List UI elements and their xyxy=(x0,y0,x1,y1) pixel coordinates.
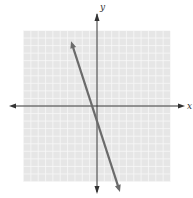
x-axis-label: x xyxy=(187,101,192,111)
y-axis-up-arrow-icon xyxy=(95,13,100,21)
line-bottom-arrow-icon xyxy=(115,184,121,192)
y-axis-down-arrow-icon xyxy=(95,186,100,194)
x-axis-left-arrow-icon xyxy=(9,104,16,109)
coordinate-plane: x y xyxy=(0,0,193,198)
y-axis-label: y xyxy=(99,2,106,12)
x-axis-right-arrow-icon xyxy=(178,104,185,109)
